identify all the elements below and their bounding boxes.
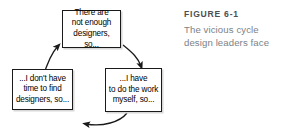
cycle-node-label: ...I have to do the work myself, so...: [107, 74, 160, 106]
cycle-node-label: ...I don't have time to find designers, …: [14, 74, 71, 106]
figure-caption-line: design leaders face: [184, 36, 282, 49]
figure-number-label: FIGURE 6-1: [184, 9, 282, 19]
figure-caption: FIGURE 6-1 The vicious cycle design lead…: [184, 9, 282, 49]
cycle-node-do-work-myself: ...I have to do the work myself, so...: [105, 68, 162, 112]
cycle-node-not-enough-designers: There are not enough designers, so...: [62, 10, 121, 48]
cycle-node-label: There are not enough designers, so...: [63, 8, 120, 50]
arrow-right-to-left: [86, 113, 127, 125]
figure-caption-line: The vicious cycle: [184, 23, 282, 36]
cycle-node-no-time-to-find: ...I don't have time to find designers, …: [12, 69, 73, 110]
arrow-top-to-right: [123, 45, 141, 66]
figure-container: There are not enough designers, so... ..…: [0, 0, 284, 133]
vicious-cycle-diagram: There are not enough designers, so... ..…: [0, 0, 180, 133]
